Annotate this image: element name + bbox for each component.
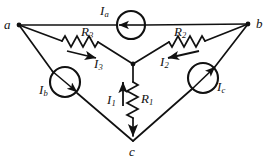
wire-source-ib-to-c — [77, 93, 133, 141]
circuit-diagram: a b c Ia Ib Ic R3 R2 R1 I3 I2 I1 — [0, 0, 268, 163]
source-label-ib: Ib — [39, 83, 48, 97]
node-label-a: a — [4, 18, 11, 31]
current-label-i2: I2 — [160, 55, 169, 69]
resistor-label-r3: R3 — [81, 25, 93, 39]
node-label-b: b — [256, 17, 263, 30]
wire-r3-to-center — [98, 42, 133, 64]
node-label-c: c — [129, 145, 135, 158]
resistor-r1-zigzag — [127, 82, 138, 118]
node-dot-b — [246, 22, 251, 27]
resistor-label-r1: R1 — [141, 92, 153, 106]
node-dot-center — [131, 62, 136, 67]
current-label-i3: I3 — [94, 57, 103, 71]
node-dot-a — [17, 23, 22, 28]
current-i2-arrow — [168, 51, 199, 58]
current-i3-arrow — [67, 51, 96, 58]
resistor-label-r2: R2 — [174, 25, 186, 39]
wire-source-ia-to-b — [145, 24, 248, 25]
source-label-ic: Ic — [217, 80, 225, 94]
current-label-i1: I1 — [107, 93, 116, 107]
source-label-ia: Ia — [100, 4, 109, 18]
